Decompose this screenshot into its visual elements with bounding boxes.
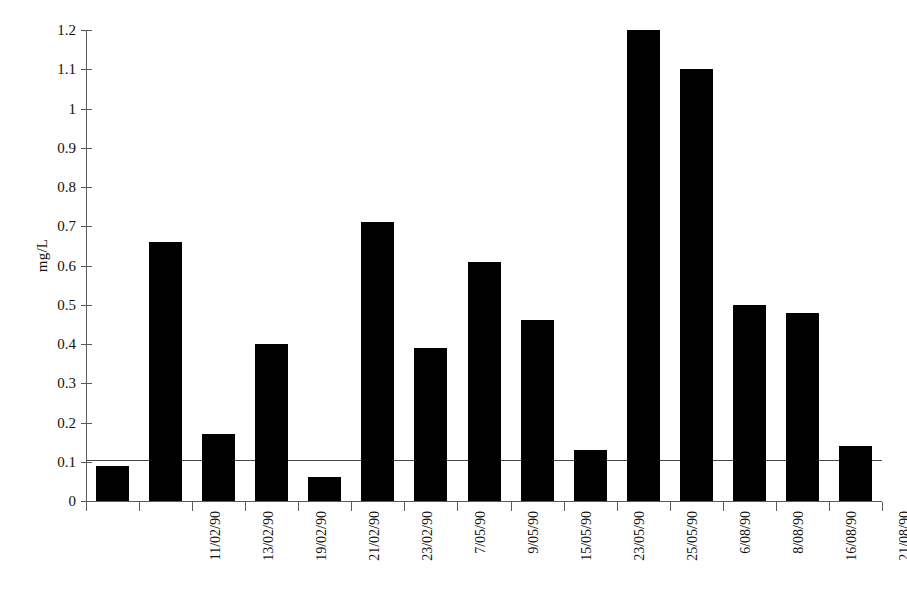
bar	[839, 446, 872, 501]
x-axis-tick	[723, 502, 724, 511]
y-axis-tick	[81, 266, 92, 267]
x-axis-line	[86, 501, 882, 502]
bar	[627, 30, 660, 501]
y-axis-tick	[81, 109, 92, 110]
y-axis-tick	[81, 148, 92, 149]
x-axis-tick	[245, 502, 246, 511]
bar	[574, 450, 607, 501]
y-axis-tick	[81, 462, 92, 463]
bar	[786, 313, 819, 501]
x-axis-tick	[351, 502, 352, 511]
y-axis-tick-label: 0.7	[30, 219, 76, 234]
x-axis-tick-label: 16/08/90	[845, 511, 859, 601]
x-axis-tick-label: 9/05/90	[527, 511, 541, 601]
y-axis-tick-label: 0.3	[30, 376, 76, 391]
x-axis-tick-label: 21/08/90	[898, 511, 907, 601]
x-axis-tick-label: 23/05/90	[633, 511, 647, 601]
x-axis-tick-label: 6/08/90	[739, 511, 753, 601]
y-axis-tick-label: 0.6	[30, 258, 76, 273]
x-axis-tick	[457, 502, 458, 511]
bar	[96, 466, 129, 501]
bar	[202, 434, 235, 501]
y-axis-tick-label: 0.8	[30, 180, 76, 195]
y-axis-tick-label: 0.1	[30, 454, 76, 469]
y-axis-tick	[81, 69, 92, 70]
x-axis-tick-label: 13/02/90	[262, 511, 276, 601]
x-axis-tick-label: 8/08/90	[792, 511, 806, 601]
bar	[361, 222, 394, 501]
x-axis-tick	[564, 502, 565, 511]
y-axis-tick	[81, 305, 92, 306]
y-axis-tick-label: 0.9	[30, 140, 76, 155]
x-axis-tick-label: 23/02/90	[421, 511, 435, 601]
bar	[149, 242, 182, 501]
x-axis-tick	[776, 502, 777, 511]
y-axis-tick-label: 0.2	[30, 415, 76, 430]
x-axis-tick-label: 7/05/90	[474, 511, 488, 601]
bar	[255, 344, 288, 501]
y-axis-tick-label: 0.5	[30, 297, 76, 312]
bar	[414, 348, 447, 501]
y-axis-tick	[81, 344, 92, 345]
x-axis-tick-label: 15/05/90	[580, 511, 594, 601]
x-axis-tick	[882, 502, 883, 511]
y-axis-tick	[81, 423, 92, 424]
plot-area	[86, 30, 882, 502]
y-axis-tick-label: 1.1	[30, 62, 76, 77]
x-axis-tick	[617, 502, 618, 511]
y-axis-tick-labels: 00.10.20.30.40.50.60.70.80.911.11.2	[30, 0, 76, 605]
bar-chart: mg/L 00.10.20.30.40.50.60.70.80.911.11.2…	[0, 0, 907, 605]
bar	[308, 477, 341, 501]
x-axis-tick	[404, 502, 405, 511]
y-axis-tick-label: 1	[30, 101, 76, 116]
x-axis-tick	[670, 502, 671, 511]
bar	[468, 262, 501, 501]
x-axis-tick	[298, 502, 299, 511]
x-axis-tick-label: 25/05/90	[686, 511, 700, 601]
x-axis-tick-labels: 11/02/9013/02/9019/02/9021/02/9023/02/90…	[86, 511, 882, 605]
x-axis-tick	[139, 502, 140, 511]
y-axis-tick	[81, 187, 92, 188]
y-axis-tick	[81, 226, 92, 227]
y-axis-tick	[81, 30, 92, 31]
x-axis-tick-label: 11/02/90	[209, 511, 223, 601]
x-axis-tick	[86, 502, 87, 511]
x-axis-tick-label: 19/02/90	[315, 511, 329, 601]
x-axis-tick	[192, 502, 193, 511]
bar	[680, 69, 713, 501]
y-axis-tick-label: 0.4	[30, 337, 76, 352]
x-axis-tick	[829, 502, 830, 511]
y-axis-tick-label: 0	[30, 494, 76, 509]
x-axis-tick	[511, 502, 512, 511]
bar	[521, 320, 554, 501]
y-axis-tick-label: 1.2	[30, 23, 76, 38]
bar	[733, 305, 766, 501]
x-axis-tick-label: 21/02/90	[368, 511, 382, 601]
y-axis-tick	[81, 383, 92, 384]
